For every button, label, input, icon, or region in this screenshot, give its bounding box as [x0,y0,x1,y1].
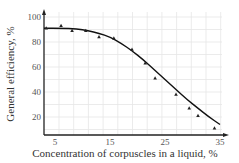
data-point-marker [187,106,191,109]
x-tick-label: 25 [161,137,171,147]
data-points [44,24,216,130]
data-point-marker [196,114,200,117]
y-tick-labels: 20406080100 [28,12,42,122]
y-axis-arrow-icon [42,9,46,15]
data-point-marker [97,35,101,38]
x-axis-label: Concentration of corpuscles in a liquid,… [32,147,217,159]
x-tick-labels: 5152535 [53,137,225,147]
data-point-marker [59,24,63,27]
y-tick-label: 40 [32,87,42,97]
y-tick-label: 80 [32,37,42,47]
y-tick-label: 20 [32,112,42,122]
x-tick-label: 35 [216,137,226,147]
y-tick-label: 100 [28,12,42,22]
y-tick-label: 60 [32,62,42,72]
chart: 20406080100 5152535 Concentration of cor… [0,0,239,163]
data-point-marker [213,126,217,129]
fitted-curve [44,28,220,124]
grid [44,12,222,135]
data-point-marker [153,76,157,79]
x-tick-label: 15 [106,137,116,147]
x-tick-label: 5 [53,137,58,147]
y-axis-label: General efficiency, % [4,26,16,121]
data-point-marker [174,93,178,96]
